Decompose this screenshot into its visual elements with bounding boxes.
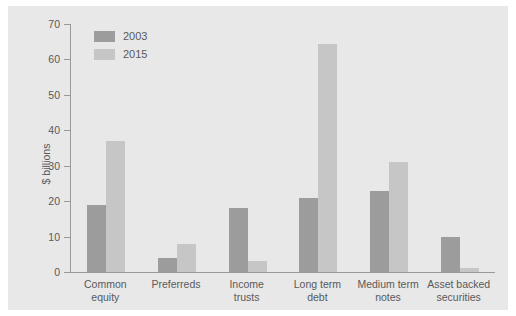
y-axis-tick-label: 10 [20, 231, 60, 242]
y-axis-tick-label: 70 [20, 19, 60, 30]
bar-2003-4[interactable] [370, 191, 389, 272]
y-axis-tick-label: 0 [20, 267, 60, 278]
x-axis-label: Long termdebt [282, 278, 353, 304]
x-axis-label-line: notes [353, 291, 424, 304]
legend-item-2015[interactable]: 2015 [94, 49, 147, 60]
legend-swatch-icon [94, 49, 115, 60]
x-axis-label-line: Preferreds [141, 278, 212, 291]
y-axis-tick-label: 20 [20, 196, 60, 207]
bar-2003-3[interactable] [299, 198, 318, 272]
bar-2003-2[interactable] [229, 208, 248, 272]
bars-layer [71, 24, 495, 272]
legend-label: 2015 [123, 49, 147, 60]
y-axis-tick-label: 50 [20, 90, 60, 101]
plot-wrapper: $ billions 010203040506070 CommonequityP… [8, 6, 508, 310]
chart-legend: 20032015 [94, 31, 147, 60]
x-axis-label-line: Common [70, 278, 141, 291]
plot-area [70, 24, 495, 273]
y-axis-tick-label: 40 [20, 125, 60, 136]
bar-group [212, 24, 283, 272]
bar-2015-1[interactable] [177, 244, 196, 272]
bar-group [283, 24, 354, 272]
x-axis-label-line: securities [423, 291, 494, 304]
y-axis-tick-label: 60 [20, 54, 60, 65]
x-axis-label-line: Long term [282, 278, 353, 291]
x-axis-label: Medium termnotes [353, 278, 424, 304]
legend-label: 2003 [123, 31, 147, 42]
bar-2015-4[interactable] [389, 162, 408, 272]
bar-2003-1[interactable] [158, 258, 177, 272]
x-axis-label: Preferreds [141, 278, 212, 304]
bar-group [142, 24, 213, 272]
y-axis-tick-label: 30 [20, 160, 60, 171]
x-axis-label-line: Asset backed [423, 278, 494, 291]
bar-2015-3[interactable] [318, 44, 337, 273]
bar-group [424, 24, 495, 272]
bar-2015-2[interactable] [248, 261, 267, 272]
legend-swatch-icon [94, 31, 115, 42]
bar-2015-5[interactable] [460, 268, 479, 272]
x-axis-label-line: Income [211, 278, 282, 291]
x-axis-label-line: equity [70, 291, 141, 304]
x-axis-label-line: Medium term [353, 278, 424, 291]
x-axis-labels: CommonequityPreferredsIncometrustsLong t… [70, 278, 494, 304]
chart-panel: $ billions 010203040506070 CommonequityP… [8, 6, 508, 310]
bar-group [71, 24, 142, 272]
x-axis-label: Asset backedsecurities [423, 278, 494, 304]
legend-item-2003[interactable]: 2003 [94, 31, 147, 42]
x-axis-label-line: debt [282, 291, 353, 304]
bar-group [354, 24, 425, 272]
x-axis-label-line: trusts [211, 291, 282, 304]
bar-2003-0[interactable] [87, 205, 106, 272]
x-axis-label: Incometrusts [211, 278, 282, 304]
x-axis-label: Commonequity [70, 278, 141, 304]
bar-2015-0[interactable] [106, 141, 125, 272]
bar-2003-5[interactable] [441, 237, 460, 272]
